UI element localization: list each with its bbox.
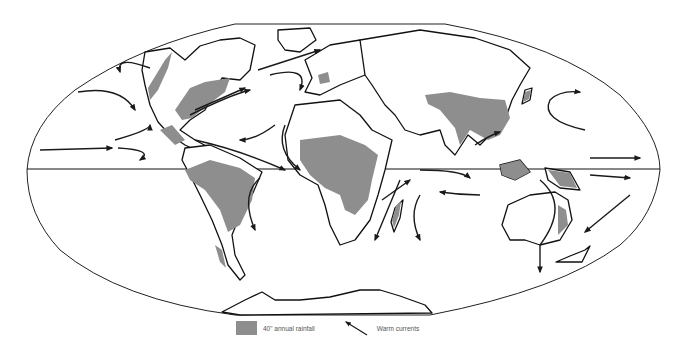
antarctica <box>222 290 432 315</box>
warm-current-arrow-icon <box>343 320 369 336</box>
new-zealand <box>556 246 590 262</box>
legend: 40" annual rainfall Warm currents <box>236 320 447 336</box>
world-map <box>0 0 688 357</box>
legend-warm-currents-label: Warm currents <box>377 325 419 332</box>
rain-se-asia <box>500 160 530 180</box>
legend-rainfall-label: 40" annual rainfall <box>263 325 315 332</box>
greenland <box>278 28 316 52</box>
rainfall-swatch-icon <box>236 321 257 335</box>
